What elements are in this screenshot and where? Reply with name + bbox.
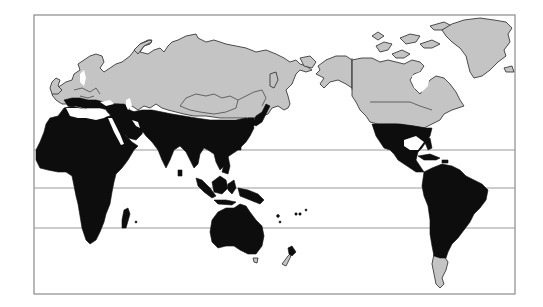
taiwan — [238, 144, 241, 150]
pacific-island — [299, 213, 301, 215]
pacific-island — [277, 215, 280, 218]
sri-lanka — [178, 170, 182, 176]
hispaniola — [442, 160, 448, 163]
tasmania — [253, 258, 258, 263]
pacific-island — [295, 213, 297, 215]
pacific-island — [135, 221, 137, 223]
pacific-island — [305, 209, 307, 211]
pacific-island — [279, 221, 281, 223]
world-map — [0, 0, 543, 307]
